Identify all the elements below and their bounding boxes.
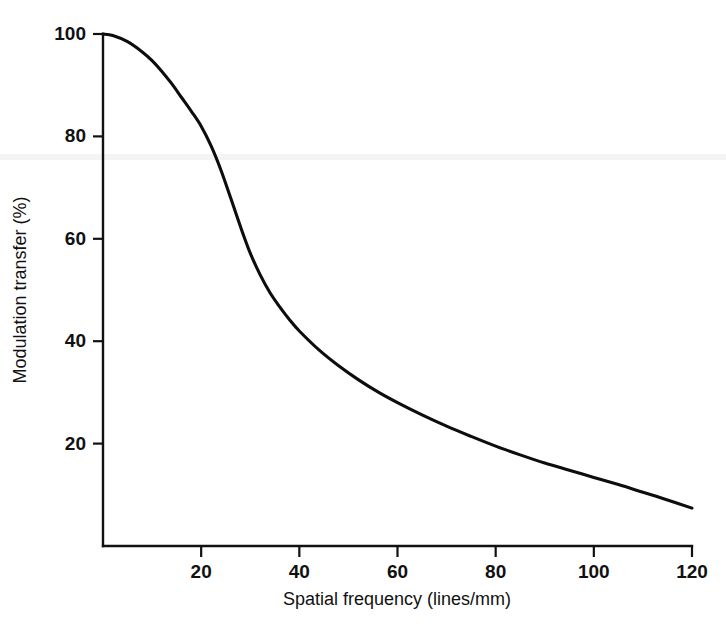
- mtf-curve: [103, 34, 692, 508]
- y-tick-label: 60: [65, 228, 86, 249]
- x-tick-label: 40: [289, 561, 310, 582]
- x-tick-label: 20: [191, 561, 212, 582]
- scan-artifact-band: [0, 154, 726, 160]
- y-tick-label: 100: [54, 23, 86, 44]
- x-tick-label: 120: [676, 561, 708, 582]
- x-axis-title: Spatial frequency (lines/mm): [283, 589, 511, 609]
- y-axis-ticks: 20406080100: [54, 23, 103, 454]
- y-axis-title: Modulation transfer (%): [10, 196, 30, 383]
- x-axis-ticks: 20406080100120: [191, 546, 708, 582]
- x-tick-label: 100: [578, 561, 610, 582]
- chart-canvas: 20406080100 20406080100120 Spatial frequ…: [0, 0, 726, 632]
- x-tick-label: 80: [485, 561, 506, 582]
- y-tick-label: 20: [65, 433, 86, 454]
- mtf-chart-figure: 20406080100 20406080100120 Spatial frequ…: [0, 0, 726, 632]
- x-tick-label: 60: [387, 561, 408, 582]
- y-tick-label: 40: [65, 330, 86, 351]
- y-tick-label: 80: [65, 125, 86, 146]
